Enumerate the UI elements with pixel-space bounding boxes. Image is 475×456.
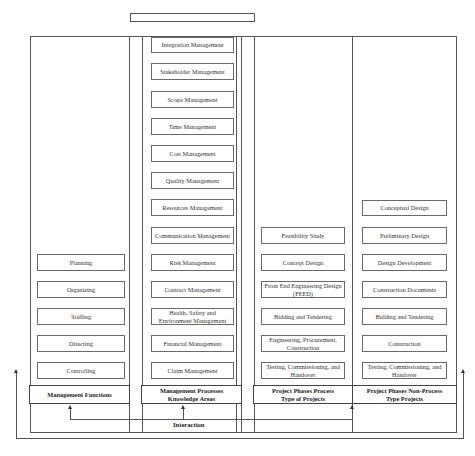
process-phase-box: Front End Engineering Design (FEED) [261,281,345,298]
header-project-phases-non-process: Project Phases Non-Process Type Projects [352,385,457,404]
non-process-phase-box: Construction [362,335,447,352]
knowledge-area-box: Health, Safety and Environment Managemen… [151,308,234,325]
header-project-phases-process: Project Phases Process Type of Projects [253,385,353,404]
process-phase-box: Testing, Commissioning, and Handover [261,362,345,379]
knowledge-area-box: Integration Management [151,37,234,53]
header-management-processes: Management Processes Knowledge Areas [141,385,242,404]
knowledge-area-box: Claim Management [151,362,234,379]
non-process-phase-box: Testing, Commissioning, and Handover [362,362,447,379]
column-divider [254,36,255,432]
arrow-up-icon [181,405,185,409]
knowledge-area-box: Scope Management [151,91,234,108]
column-divider [142,36,143,432]
non-process-phase-box: Design Development [362,254,447,271]
management-function-box: Controlling [37,362,125,379]
frame-right-line [456,36,457,432]
non-process-phase-box: Bidding and Tendering [362,308,447,325]
arrow-up-icon [14,369,18,373]
knowledge-area-box: Risk Management [151,254,234,271]
knowledge-area-box: Communication Management [151,227,234,244]
management-function-box: Staffing [37,308,125,325]
non-process-phase-box: Construction Documents [362,281,447,298]
management-function-box: Directing [37,335,125,352]
header-management-functions: Management Functions [29,385,130,404]
arrow-up-icon [461,369,465,373]
process-phase-box: Engineering, Procurement, Construction [261,335,345,352]
column-divider [236,36,237,432]
knowledge-area-box: Financial Management [151,335,234,352]
knowledge-area-box: Contract Management [151,281,234,298]
knowledge-area-box: Quality Management [151,172,234,189]
non-process-phase-box: Conceptual Design [362,200,447,216]
process-phase-box: Concept Design [261,254,345,271]
interaction-connector [352,408,353,420]
knowledge-area-box: Resources Management [151,199,234,216]
column-divider [241,36,242,432]
arrow-up-icon [68,405,72,409]
interaction-label: Interaction [173,421,205,428]
interaction-connector [70,408,71,420]
knowledge-area-box: Stakeholder Management [151,63,234,80]
non-process-phase-box: Preliminary Design [362,227,447,244]
outer-loop-connector [16,372,17,439]
outer-loop-connector [463,372,464,439]
management-function-box: Organizing [37,281,125,298]
column-divider [352,36,353,432]
interaction-line [70,419,353,420]
process-phase-box: Bidding and Tendering [261,308,345,325]
frame-bottom-line [30,432,457,433]
knowledge-area-box: Cost Management [151,145,234,162]
knowledge-area-box: Time Management [151,118,234,135]
title-box [130,13,255,22]
process-phase-box: Feasibility Study [261,227,345,244]
outer-loop-line [16,438,464,439]
management-function-box: Planning [37,254,125,271]
interaction-connector [183,408,184,420]
arrow-up-icon [350,405,354,409]
